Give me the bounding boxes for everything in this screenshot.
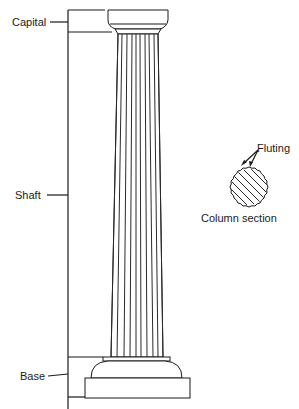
capital [108, 10, 168, 34]
capital-label: Capital [12, 16, 46, 28]
column-section-icon [216, 158, 278, 220]
base-label: Base [20, 370, 45, 382]
part-bracket [68, 10, 112, 409]
base [85, 357, 190, 398]
shaft-label: Shaft [15, 189, 41, 201]
fluting-arrows [241, 150, 258, 167]
column-section-label: Column section [201, 212, 277, 224]
base-leader-line [48, 374, 68, 376]
doric-column-diagram: Capital Shaft Base [0, 0, 299, 409]
shaft [111, 34, 163, 357]
fluting-label: Fluting [257, 142, 290, 154]
